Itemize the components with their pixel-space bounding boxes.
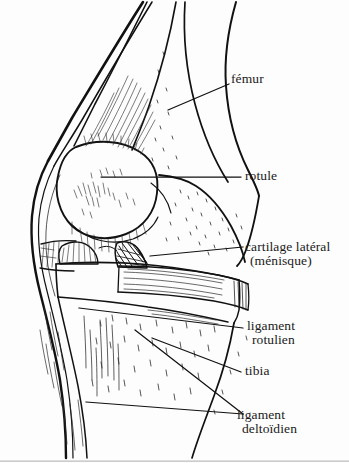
label-ligament-rotulien-line2: rotulien: [247, 333, 295, 347]
leader-ligament-deltoidien-b: [135, 330, 243, 414]
leader-ligament-rotulien: [79, 308, 243, 328]
label-tibia: tibia: [245, 364, 270, 378]
label-ligament-deltoidien-line1: ligament: [237, 407, 285, 422]
anterior-condyle-nub: [59, 242, 98, 264]
posterior-skin-contour: [225, 2, 259, 196]
leader-ligament-deltoidien-a: [86, 402, 243, 414]
subcutaneous-streak: [46, 175, 60, 296]
label-cartilage-line2: (ménisque): [245, 254, 330, 268]
femur-posterior-border: [184, 2, 228, 182]
posterior-soft-tissue-stipple: [214, 336, 247, 414]
tibia-anterior-border: [56, 264, 58, 297]
tibia-fiber-streaks: [84, 316, 119, 396]
tibial-tuberosity-line: [58, 297, 228, 322]
label-cartilage-lateral: cartilage latéral (ménisque): [245, 240, 330, 268]
leader-lines: [79, 84, 243, 414]
anterior-leg-contour-inner: [38, 166, 73, 458]
quadriceps-fiber-hatching: [86, 76, 155, 150]
label-ligament-deltoidien: ligament deltoïdien: [237, 408, 297, 436]
anatomical-figure-page: fémur rotule cartilage latéral (ménisque…: [0, 0, 349, 463]
joint-capsule-lower: [40, 268, 74, 271]
patellar-ligament-band-lower: [118, 292, 248, 310]
label-cartilage-line1: cartilage latéral: [245, 239, 330, 254]
label-ligament-deltoidien-line2: deltoïdien: [237, 422, 297, 436]
patellar-ligament-right-edge: [248, 284, 249, 310]
label-ligament-rotulien-line1: ligament: [247, 318, 295, 333]
label-femur: fémur: [231, 72, 264, 86]
knee-anatomy-drawing: [0, 0, 349, 463]
label-ligament-rotulien: ligament rotulien: [247, 319, 295, 347]
femoral-condyle-outline: [159, 175, 245, 262]
patellar-ligament-left-edge: [118, 266, 119, 292]
quadriceps-tendon-anterior: [74, 2, 147, 146]
label-rotule: rotule: [245, 169, 277, 183]
patella-trabecular-hatching: [74, 168, 135, 218]
tibia-stipple: [92, 315, 215, 400]
leader-cartilage: [150, 247, 243, 256]
anterior-nub-hatching: [62, 242, 96, 263]
condyle-stipple: [166, 190, 242, 255]
femur-shaft-stipple: [152, 52, 177, 169]
leader-femur: [168, 84, 229, 110]
